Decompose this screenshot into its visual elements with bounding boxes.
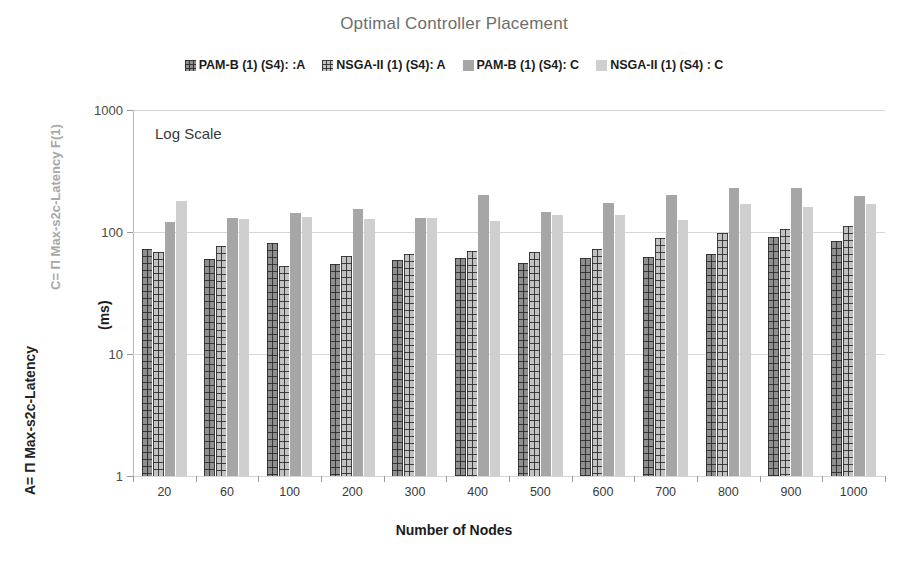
bar[interactable] (552, 215, 563, 476)
y-axis-title: (ms) (96, 300, 112, 330)
bar[interactable] (364, 219, 375, 476)
bar-group (822, 110, 885, 476)
x-tick-mark (697, 476, 698, 482)
bar-group (133, 110, 196, 476)
bar[interactable] (541, 212, 552, 476)
bar[interactable] (153, 252, 164, 476)
x-tick-label: 700 (634, 485, 697, 499)
bar[interactable] (529, 252, 540, 476)
bar[interactable] (717, 233, 728, 476)
y-tick-label: 1000 (69, 103, 123, 118)
bar[interactable] (866, 204, 877, 476)
x-tick-mark (384, 476, 385, 482)
bar[interactable] (330, 264, 341, 476)
bar[interactable] (302, 217, 313, 476)
plot-area (133, 110, 885, 476)
x-tick-label: 800 (697, 485, 760, 499)
chart-legend: PAM-B (1) (S4): :ANSGA-II (1) (S4): APAM… (0, 58, 908, 72)
x-axis-title: Number of Nodes (0, 522, 908, 538)
log-scale-annotation: Log Scale (155, 125, 222, 142)
bar[interactable] (518, 263, 529, 476)
bar[interactable] (279, 266, 290, 476)
bar[interactable] (404, 254, 415, 476)
legend-item[interactable]: PAM-B (1) (S4): :A (185, 58, 306, 72)
bar[interactable] (831, 241, 842, 476)
legend-swatch-icon (322, 60, 333, 71)
bar[interactable] (267, 243, 278, 476)
x-tick-label: 400 (446, 485, 509, 499)
x-tick-mark (133, 476, 134, 482)
bar[interactable] (706, 254, 717, 476)
bar-group (196, 110, 259, 476)
x-tick-mark (446, 476, 447, 482)
bar[interactable] (204, 259, 215, 476)
bar[interactable] (643, 257, 654, 476)
x-tick-mark (196, 476, 197, 482)
legend-item-label: NSGA-II (1) (S4): A (336, 58, 445, 72)
x-tick-label: 300 (384, 485, 447, 499)
x-tick-label: 1000 (822, 485, 885, 499)
bar-group (572, 110, 635, 476)
bar[interactable] (655, 238, 666, 476)
bar[interactable] (740, 204, 751, 476)
x-tick-mark (572, 476, 573, 482)
x-tick-label: 60 (196, 485, 259, 499)
bar[interactable] (415, 218, 426, 476)
y-tick-label: 100 (69, 225, 123, 240)
x-tick-mark (822, 476, 823, 482)
bar[interactable] (580, 258, 591, 476)
bar[interactable] (478, 195, 489, 476)
bar-group (634, 110, 697, 476)
bar[interactable] (341, 256, 352, 476)
bar[interactable] (803, 207, 814, 476)
bar[interactable] (427, 218, 438, 476)
bar[interactable] (843, 226, 854, 476)
legend-item[interactable]: PAM-B (1) (S4): C (463, 58, 580, 72)
bar[interactable] (227, 218, 238, 476)
y-tick-label: 1 (69, 469, 123, 484)
bar[interactable] (216, 246, 227, 476)
bar[interactable] (729, 188, 740, 476)
x-tick-label: 500 (509, 485, 572, 499)
bar[interactable] (467, 251, 478, 476)
x-tick-label: 600 (572, 485, 635, 499)
x-tick-mark (760, 476, 761, 482)
x-tick-label: 900 (760, 485, 823, 499)
bar-group (258, 110, 321, 476)
x-tick-label: 200 (321, 485, 384, 499)
left-axis-label-c: C= Π Max-s2c-Latency F(1) (48, 124, 63, 290)
bar[interactable] (854, 196, 865, 476)
bar[interactable] (615, 215, 626, 476)
bar[interactable] (290, 213, 301, 476)
bar[interactable] (353, 209, 364, 476)
legend-swatch-icon (185, 60, 196, 71)
bar[interactable] (791, 188, 802, 476)
bar[interactable] (165, 222, 176, 476)
legend-item[interactable]: NSGA-II (1) (S4) : C (596, 58, 723, 72)
bar[interactable] (768, 237, 779, 476)
bar-group (384, 110, 447, 476)
legend-swatch-icon (596, 60, 607, 71)
x-tick-mark (885, 476, 886, 482)
x-tick-mark (509, 476, 510, 482)
legend-item[interactable]: NSGA-II (1) (S4): A (322, 58, 445, 72)
bar[interactable] (142, 249, 153, 476)
legend-item-label: NSGA-II (1) (S4) : C (610, 58, 723, 72)
bar[interactable] (592, 249, 603, 476)
bar[interactable] (666, 195, 677, 476)
bar[interactable] (392, 260, 403, 476)
bar[interactable] (780, 229, 791, 476)
bar[interactable] (678, 220, 689, 476)
bar[interactable] (490, 221, 501, 476)
bar[interactable] (176, 201, 187, 476)
bar[interactable] (455, 258, 466, 476)
x-tick-mark (634, 476, 635, 482)
bar[interactable] (603, 203, 614, 476)
chart-title: Optimal Controller Placement (0, 14, 908, 34)
legend-item-label: PAM-B (1) (S4): :A (199, 58, 306, 72)
x-tick-mark (258, 476, 259, 482)
bar-group (446, 110, 509, 476)
x-tick-mark (321, 476, 322, 482)
bar[interactable] (239, 219, 250, 476)
legend-swatch-icon (463, 60, 474, 71)
